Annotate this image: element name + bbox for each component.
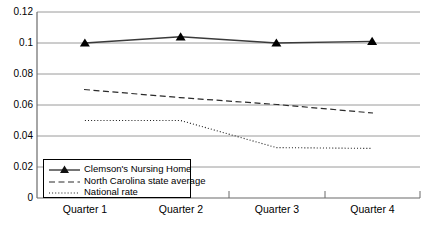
series-line-clemsons-nursing-home <box>85 37 372 43</box>
legend-item-national-rate: National rate <box>44 185 190 198</box>
legend-label: National rate <box>84 185 138 198</box>
dotted-line-icon <box>48 185 81 198</box>
chart-legend: Clemson's Nursing Home North Carolina st… <box>43 159 191 198</box>
x-tick-label-quarter-4: Quarter 4 <box>325 203 420 215</box>
x-tick-label-quarter-3: Quarter 3 <box>229 203 325 215</box>
x-tick-label-quarter-1: Quarter 1 <box>37 203 133 215</box>
gridlines <box>37 12 420 167</box>
series-line-nc-state-average <box>84 90 373 114</box>
series-line-national-rate <box>85 121 372 149</box>
line-chart: 0.12 0.1 0.08 0.06 0.04 0.02 0 <box>0 0 429 226</box>
x-tick-label-quarter-2: Quarter 2 <box>133 203 229 215</box>
